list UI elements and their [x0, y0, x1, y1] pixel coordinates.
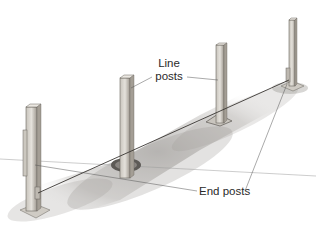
- line-post-2: [216, 43, 227, 123]
- ground-shading: [3, 75, 308, 228]
- end-post-back: [286, 18, 297, 86]
- line-posts-label: Line posts: [152, 57, 186, 83]
- line-posts-label-line2: posts: [152, 70, 186, 83]
- line-post-1: [120, 75, 134, 178]
- end-posts-label: End posts: [199, 185, 250, 198]
- fence-post-illustration: [0, 0, 316, 228]
- end-post-front: [23, 104, 41, 211]
- line-posts-label-line1: Line: [152, 57, 186, 70]
- leader-line-posts-to-post3: [187, 77, 218, 80]
